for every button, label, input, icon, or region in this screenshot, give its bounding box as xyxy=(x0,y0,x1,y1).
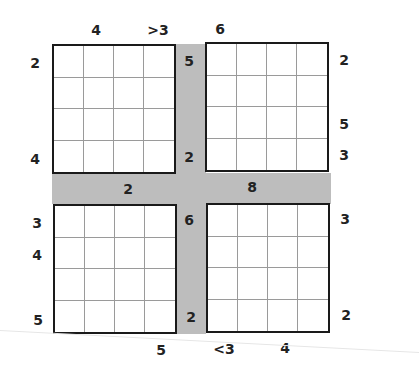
clue-tr-right-row4: 3 xyxy=(332,147,356,163)
clue-band-v-bottom: 2 xyxy=(179,309,203,325)
grid-cell[interactable] xyxy=(208,205,238,237)
horizontal-band xyxy=(52,173,331,204)
grid-cell[interactable] xyxy=(267,139,297,171)
grid-cell[interactable] xyxy=(144,109,174,141)
grid-cell[interactable] xyxy=(114,109,144,141)
clue-tl-left-row1: 2 xyxy=(23,55,47,71)
grid-cell[interactable] xyxy=(115,206,145,238)
page-edge-line xyxy=(0,330,419,353)
clue-bl-bottom-col4: 5 xyxy=(149,342,173,358)
clue-band-v-top: 5 xyxy=(177,53,201,69)
clue-bl-left-row1: 3 xyxy=(25,215,49,231)
clue-band-h-left: 2 xyxy=(116,181,140,197)
grid-cell[interactable] xyxy=(144,46,174,78)
grid-cell[interactable] xyxy=(145,206,175,238)
clue-band-h-right: 8 xyxy=(240,179,264,195)
grid-cell[interactable] xyxy=(268,300,298,332)
grid-cell[interactable] xyxy=(85,206,115,238)
grid-cell[interactable] xyxy=(207,139,237,171)
grid-cell[interactable] xyxy=(54,78,84,110)
grid-bottom-left xyxy=(53,204,177,334)
clue-br-right-row4: 2 xyxy=(334,307,358,323)
grid-cell[interactable] xyxy=(85,269,115,301)
grid-cell[interactable] xyxy=(84,46,114,78)
grid-cell[interactable] xyxy=(298,300,328,332)
grid-cell[interactable] xyxy=(207,44,237,76)
grid-cell[interactable] xyxy=(237,139,267,171)
grid-cell[interactable] xyxy=(297,76,327,108)
grid-cell[interactable] xyxy=(238,205,268,237)
grid-cell[interactable] xyxy=(267,76,297,108)
grid-cell[interactable] xyxy=(297,44,327,76)
clue-br-bottom-col3: 4 xyxy=(273,340,297,356)
clue-tr-top-col1: 6 xyxy=(208,21,232,37)
clue-br-right-row1: 3 xyxy=(333,211,357,227)
grid-cell[interactable] xyxy=(267,107,297,139)
grid-top-right xyxy=(205,42,329,172)
clue-bl-left-row4: 5 xyxy=(26,312,50,328)
grid-cell[interactable] xyxy=(268,268,298,300)
grid-cell[interactable] xyxy=(54,109,84,141)
grid-cell[interactable] xyxy=(298,268,328,300)
grid-bottom-right xyxy=(206,203,330,333)
grid-cell[interactable] xyxy=(115,269,145,301)
grid-cell[interactable] xyxy=(55,301,85,333)
grid-cell[interactable] xyxy=(238,237,268,269)
clue-tl-top-col4: >3 xyxy=(146,22,170,38)
grid-cell[interactable] xyxy=(85,238,115,270)
grid-cell[interactable] xyxy=(55,238,85,270)
grid-cell[interactable] xyxy=(237,76,267,108)
grid-cell[interactable] xyxy=(55,206,85,238)
clue-tr-right-row3: 5 xyxy=(332,116,356,132)
grid-cell[interactable] xyxy=(298,237,328,269)
clue-br-bottom-col1: <3 xyxy=(212,341,236,357)
grid-cell[interactable] xyxy=(84,78,114,110)
grid-cell[interactable] xyxy=(297,107,327,139)
grid-cell[interactable] xyxy=(85,301,115,333)
grid-cell[interactable] xyxy=(115,301,145,333)
grid-top-left xyxy=(52,44,176,174)
grid-cell[interactable] xyxy=(145,301,175,333)
grid-cell[interactable] xyxy=(268,237,298,269)
grid-cell[interactable] xyxy=(54,141,84,173)
grid-cell[interactable] xyxy=(145,238,175,270)
grid-cell[interactable] xyxy=(207,76,237,108)
grid-cell[interactable] xyxy=(237,44,267,76)
grid-cell[interactable] xyxy=(298,205,328,237)
grid-cell[interactable] xyxy=(55,269,85,301)
grid-cell[interactable] xyxy=(238,300,268,332)
clue-tl-left-row4: 4 xyxy=(23,151,47,167)
clue-tl-top-col2: 4 xyxy=(84,22,108,38)
grid-cell[interactable] xyxy=(208,300,238,332)
grid-cell[interactable] xyxy=(114,78,144,110)
grid-cell[interactable] xyxy=(54,46,84,78)
grid-cell[interactable] xyxy=(208,268,238,300)
clue-bl-left-row2: 4 xyxy=(25,247,49,263)
clue-band-v-upper-mid: 2 xyxy=(177,149,201,165)
grid-cell[interactable] xyxy=(208,237,238,269)
grid-cell[interactable] xyxy=(114,46,144,78)
grid-cell[interactable] xyxy=(268,205,298,237)
grid-cell[interactable] xyxy=(267,44,297,76)
grid-cell[interactable] xyxy=(84,109,114,141)
grid-cell[interactable] xyxy=(114,141,144,173)
clue-band-v-lower-mid: 6 xyxy=(177,212,201,228)
grid-cell[interactable] xyxy=(238,268,268,300)
grid-cell[interactable] xyxy=(237,107,267,139)
grid-cell[interactable] xyxy=(144,141,174,173)
grid-cell[interactable] xyxy=(145,269,175,301)
grid-cell[interactable] xyxy=(84,141,114,173)
grid-cell[interactable] xyxy=(297,139,327,171)
clue-tr-right-row1: 2 xyxy=(332,52,356,68)
grid-cell[interactable] xyxy=(115,238,145,270)
grid-cell[interactable] xyxy=(144,78,174,110)
grid-cell[interactable] xyxy=(207,107,237,139)
